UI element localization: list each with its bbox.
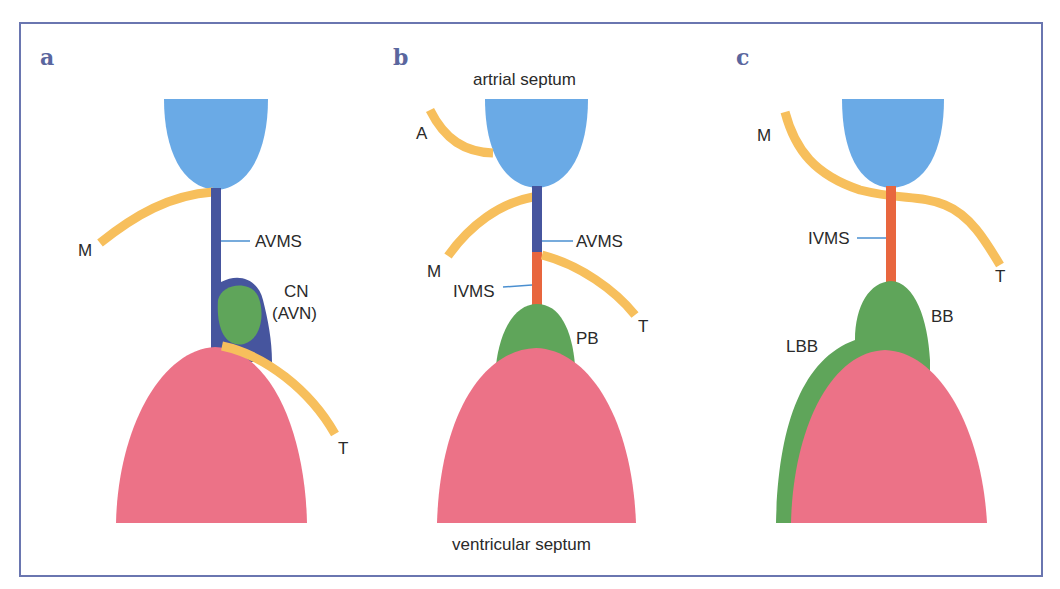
label-ventricular-septum: ventricular septum (452, 536, 591, 553)
label-t: T (338, 440, 348, 457)
panel-letter-c: c (736, 44, 749, 70)
panel-letter-b: b (393, 44, 408, 70)
mitral-valve (100, 192, 213, 243)
label-t: T (638, 318, 648, 335)
ivms-segment (532, 252, 542, 307)
label-t: T (995, 268, 1005, 285)
label-avms: AVMS (576, 233, 623, 250)
atrial-septum-shape (485, 99, 588, 188)
label-ivms: IVMS (808, 230, 850, 247)
panel-letter-a: a (40, 44, 54, 70)
panel-c (776, 99, 1000, 523)
mitral-valve (448, 197, 533, 256)
atrial-septum-shape (164, 99, 268, 190)
label-bb: BB (931, 308, 954, 325)
panel-b (430, 99, 636, 523)
tricuspid-valve (542, 255, 635, 315)
aortic-valve (430, 110, 493, 153)
ivms-segment (886, 186, 896, 283)
label-lbb: LBB (786, 338, 818, 355)
compact-node (218, 285, 262, 344)
label-m: M (427, 263, 441, 280)
label-avn: (AVN) (272, 305, 317, 322)
label-ivms: IVMS (453, 283, 495, 300)
label-cn: CN (284, 283, 309, 300)
label-m: M (757, 127, 771, 144)
label-avms: AVMS (255, 233, 302, 250)
avms-segment (532, 186, 542, 252)
label-atrial-septum: artrial septum (473, 71, 576, 88)
label-pb: PB (576, 330, 599, 347)
ventricular-septum-shape (437, 348, 636, 523)
atrial-septum-shape (842, 99, 944, 188)
label-a: A (416, 125, 427, 142)
ivms-leader (503, 285, 532, 287)
label-m: M (78, 242, 92, 259)
